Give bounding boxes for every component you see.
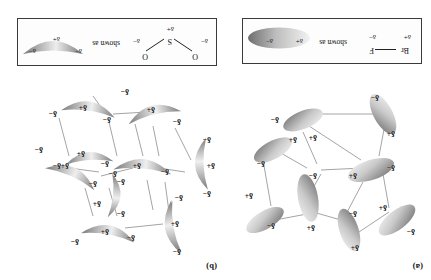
figure-root: (a) — [0, 0, 431, 280]
charge-b-3-plus: δ+ — [207, 161, 215, 170]
charge-b-8-minus-1: δ− — [101, 159, 109, 168]
legend-b-shown-as: shown as — [92, 39, 120, 48]
legend-box-b: O S O δ− δ+ δ− shown as δ− — [17, 18, 217, 66]
legend-a-swatch-plus: δ+ — [296, 37, 303, 45]
charge-a-4-plus: δ+ — [307, 223, 315, 232]
legend-a-bond — [375, 49, 396, 50]
charge-b-9-minus-1: δ− — [117, 209, 125, 218]
charge-b-8-plus: δ+ — [77, 149, 85, 158]
legend-b-atom-o-2: O — [142, 52, 148, 61]
dipole-b-3 — [194, 138, 208, 190]
charge-b-6-plus: δ+ — [147, 105, 155, 114]
charge-b-9-plus: δ+ — [93, 199, 101, 208]
legend-b-charge-s: δ+ — [167, 25, 174, 33]
panel-a: (a) — [229, 6, 425, 274]
charge-b-7-plus: δ+ — [79, 103, 87, 112]
panel-b-network — [5, 64, 221, 260]
charge-a-6-plus: δ+ — [289, 135, 297, 144]
legend-box-a: Br F δ+ δ− shown as δ+ δ− — [242, 18, 422, 64]
legend-a-charge-f: δ− — [369, 33, 376, 41]
charge-b-1-minus-1: δ− — [173, 247, 181, 256]
charge-b-4-minus-1: δ− — [161, 167, 169, 176]
dipole-a-8 — [280, 104, 326, 136]
charge-b-7-minus-2: δ− — [49, 109, 57, 118]
charge-a-8-plus: δ+ — [309, 133, 317, 142]
charge-b-3-minus-2: δ− — [203, 135, 211, 144]
charge-a-3-minus: δ− — [387, 163, 395, 172]
charge-b-1-minus-2: δ− — [175, 193, 183, 202]
charge-b-4-plus: δ+ — [133, 161, 141, 170]
charge-a-3-plus: δ+ — [349, 171, 357, 180]
legend-a-charge-br: δ+ — [404, 33, 411, 41]
charge-b-2-minus-2: δ− — [71, 237, 79, 246]
charge-a-2-plus: δ+ — [351, 243, 359, 252]
legend-b-swatch-minus-2: δ− — [29, 47, 36, 55]
charge-b-2-plus: δ+ — [101, 227, 109, 236]
charge-a-7-minus: δ− — [371, 93, 379, 102]
legend-a-shown-as: shown as — [319, 38, 347, 47]
charge-a-4-minus: δ− — [309, 171, 317, 180]
charge-b-7-minus-1: δ− — [103, 115, 111, 124]
panel-b: (b) — [5, 6, 221, 274]
charge-b-6-minus-2: δ− — [121, 87, 129, 96]
legend-b-swatch-minus-1: δ− — [75, 47, 82, 55]
dipoles-b — [45, 98, 208, 256]
legend-a-swatch-minus: δ− — [266, 37, 273, 45]
legend-b-swatch-plus: δ+ — [53, 35, 60, 43]
charge-b-1-plus: δ+ — [171, 219, 179, 228]
panel-b-caption: (b) — [206, 262, 217, 272]
charge-b-5-plus: δ+ — [61, 161, 69, 170]
charge-b-5-minus-2: δ− — [35, 145, 43, 154]
charge-a-5-minus: δ− — [267, 221, 275, 230]
charge-a-6-minus: δ− — [257, 159, 265, 168]
charge-a-2-minus: δ− — [349, 209, 357, 218]
charge-a-7-plus: δ+ — [387, 129, 395, 138]
panel-a-caption: (a) — [412, 262, 423, 272]
charge-a-5-plus: δ+ — [245, 191, 253, 200]
charge-b-9-minus-2: δ− — [117, 177, 125, 186]
dipole-a-5 — [242, 202, 287, 239]
charge-a-1-plus: δ+ — [379, 203, 387, 212]
charge-a-1-minus: δ− — [407, 227, 415, 236]
legend-a-atom-br: Br — [401, 46, 409, 55]
legend-b-charge-o-2: δ− — [133, 37, 140, 45]
charge-b-2-minus-1: δ− — [127, 233, 135, 242]
legend-b-charge-o-1: δ− — [201, 37, 208, 45]
charge-b-8-minus-2: δ− — [53, 161, 61, 170]
legend-b-atom-s: S — [168, 37, 172, 46]
charge-b-4-minus-2: δ− — [109, 169, 117, 178]
charge-b-3-minus-1: δ− — [203, 189, 211, 198]
charge-a-8-minus: δ− — [271, 115, 279, 124]
legend-a-atom-f: F — [370, 46, 374, 55]
charge-b-5-minus-1: δ− — [89, 179, 97, 188]
charge-b-6-minus-1: δ− — [173, 117, 181, 126]
legend-b-atom-o-1: O — [192, 52, 198, 61]
